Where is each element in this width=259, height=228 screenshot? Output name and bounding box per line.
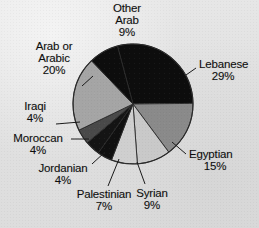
label-text-arab-or-arabic-line2: Arabic xyxy=(38,52,70,64)
label-pct-jordanian: 4% xyxy=(32,175,94,187)
leader-line-syrian xyxy=(137,162,145,184)
chart-page: Other Arab 9% Lebanese 29% Egyptian 15% … xyxy=(0,0,259,228)
label-text-other-arab-line2: Arab xyxy=(115,14,139,26)
label-pct-palestinian: 7% xyxy=(70,201,138,213)
label-pct-arab-or-arabic: 20% xyxy=(25,65,83,77)
leader-line-palestinian xyxy=(108,159,119,186)
slice-label-arab-or-arabic: Arab or Arabic 20% xyxy=(25,41,83,76)
label-pct-iraqi: 4% xyxy=(14,113,56,125)
label-text-lebanese: Lebanese xyxy=(199,58,248,70)
label-text-syrian: Syrian xyxy=(136,187,168,199)
label-text-egyptian: Egyptian xyxy=(189,148,233,160)
label-pct-moroccan: 4% xyxy=(7,145,69,157)
label-pct-lebanese: 29% xyxy=(199,71,257,83)
label-text-palestinian: Palestinian xyxy=(77,188,132,200)
slice-label-palestinian: Palestinian 7% xyxy=(70,189,138,213)
label-pct-egyptian: 15% xyxy=(189,161,253,173)
slice-label-lebanese: Lebanese 29% xyxy=(199,59,257,83)
slice-label-other-arab: Other Arab 9% xyxy=(96,3,158,38)
slice-label-iraqi: Iraqi 4% xyxy=(14,101,56,125)
label-text-arab-or-arabic-line1: Arab or xyxy=(36,40,73,52)
label-text-other-arab-line1: Other xyxy=(113,2,141,14)
slice-label-jordanian: Jordanian 4% xyxy=(32,163,94,187)
slice-label-moroccan: Moroccan 4% xyxy=(7,133,69,157)
label-pct-other-arab: 9% xyxy=(96,27,158,39)
pie-slices xyxy=(73,44,193,164)
label-text-jordanian: Jordanian xyxy=(38,162,87,174)
label-text-moroccan: Moroccan xyxy=(13,132,62,144)
label-text-iraqi: Iraqi xyxy=(24,100,46,112)
leader-line-lebanese xyxy=(186,68,196,75)
slice-label-egyptian: Egyptian 15% xyxy=(189,149,253,173)
